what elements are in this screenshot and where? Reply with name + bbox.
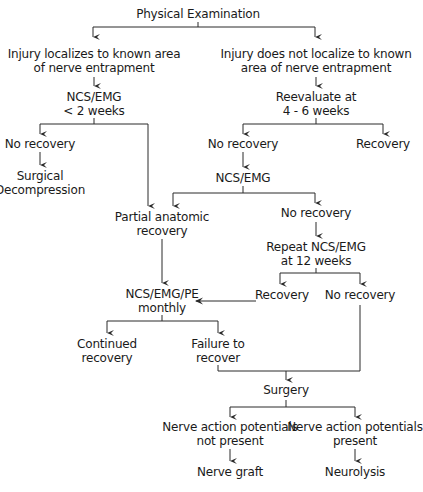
node-ncs-emg-2-weeks: NCS/EMG < 2 weeks	[63, 90, 124, 118]
node-no-recovery-left: No recovery	[5, 137, 75, 151]
node-no-recovery-2: No recovery	[281, 206, 351, 220]
node-recovery-12-weeks: Recovery	[255, 288, 309, 302]
node-nap-present: Nerve action potentials present	[287, 420, 422, 448]
node-ncs-emg-mid: NCS/EMG	[216, 171, 271, 185]
node-repeat-ncs-emg: Repeat NCS/EMG at 12 weeks	[266, 240, 366, 268]
node-physical-examination: Physical Examination	[136, 7, 260, 21]
node-partial-anatomic-recovery: Partial anatomic recovery	[115, 210, 209, 238]
node-no-recovery-12-weeks: No recovery	[325, 288, 395, 302]
node-no-recovery-mid: No recovery	[208, 137, 278, 151]
node-neurolysis: Neurolysis	[325, 465, 385, 479]
node-injury-localizes: Injury localizes to known area of nerve …	[8, 47, 181, 75]
node-failure-to-recover: Failure to recover	[191, 337, 244, 365]
node-surgical-decompression: Surgical Decompression	[0, 169, 85, 197]
node-nerve-graft: Nerve graft	[197, 465, 263, 479]
node-surgery: Surgery	[263, 383, 309, 397]
node-recovery-right: Recovery	[356, 137, 410, 151]
node-continued-recovery: Continued recovery	[77, 337, 137, 365]
node-reevaluate: Reevaluate at 4 - 6 weeks	[276, 90, 357, 118]
node-ncs-emg-pe-monthly: NCS/EMG/PE monthly	[125, 287, 198, 315]
node-injury-not-localize: Injury does not localize to known area o…	[220, 47, 411, 75]
node-nap-not-present: Nerve action potentials not present	[162, 420, 297, 448]
